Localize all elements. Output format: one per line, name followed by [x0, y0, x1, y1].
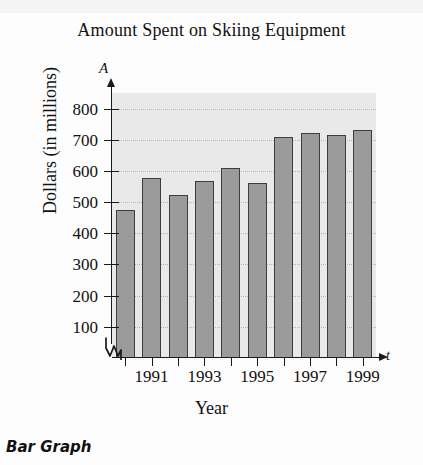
y-axis-tick [104, 140, 119, 141]
y-axis-tick-label: 500 [52, 194, 98, 211]
y-axis-tick-label: 800 [52, 101, 98, 118]
x-axis-tick [231, 358, 232, 366]
x-axis-title: Year [0, 398, 423, 419]
bar-series [112, 93, 376, 358]
y-axis-tick [104, 264, 119, 265]
x-axis-arrow-icon [379, 353, 388, 361]
x-axis-tick-label: 1991 [129, 368, 175, 385]
y-axis-tick [104, 171, 119, 172]
bar [274, 137, 293, 358]
x-axis-tick-label: 1995 [234, 368, 280, 385]
x-axis-tick [204, 358, 205, 366]
bar [301, 133, 320, 358]
figure-page: Amount Spent on Skiing Equipment A t Dol… [0, 0, 423, 465]
page-scan-strip [0, 0, 423, 13]
x-axis-tick-label: 1999 [340, 368, 386, 385]
y-axis-symbol: A [99, 60, 108, 77]
y-axis-line [111, 86, 112, 344]
figure-caption: Bar Graph [6, 438, 91, 456]
x-axis-tick-label: 1993 [181, 368, 227, 385]
x-axis-tick [284, 358, 285, 366]
x-axis-tick [336, 358, 337, 366]
y-axis-tick [104, 327, 119, 328]
y-axis-tick-label: 600 [52, 163, 98, 180]
x-axis-tick [310, 358, 311, 366]
x-axis-tick-label: 1997 [287, 368, 333, 385]
y-axis-arrow-icon [107, 78, 115, 87]
y-axis-tick [104, 233, 119, 234]
bar [221, 168, 240, 358]
x-axis-tick [152, 358, 153, 366]
y-axis-tick [104, 296, 119, 297]
bar [169, 195, 188, 358]
y-axis-tick-label: 200 [52, 288, 98, 305]
x-axis-tick [257, 358, 258, 366]
bar [327, 135, 346, 358]
y-axis-tick [104, 202, 119, 203]
plot-area [112, 93, 376, 358]
x-axis-tick [363, 358, 364, 366]
x-axis-tick [178, 358, 179, 366]
axis-break-icon [103, 336, 125, 360]
bar [142, 178, 161, 358]
y-axis-tick [104, 109, 119, 110]
y-axis-tick-label: 700 [52, 132, 98, 149]
y-axis-tick-label: 100 [52, 319, 98, 336]
chart-title: Amount Spent on Skiing Equipment [0, 20, 423, 41]
y-axis-tick-label: 300 [52, 256, 98, 273]
bar [195, 181, 214, 358]
x-axis-tick [125, 358, 126, 366]
y-axis-tick-label: 400 [52, 225, 98, 242]
bar [248, 183, 267, 358]
bar [353, 130, 372, 358]
